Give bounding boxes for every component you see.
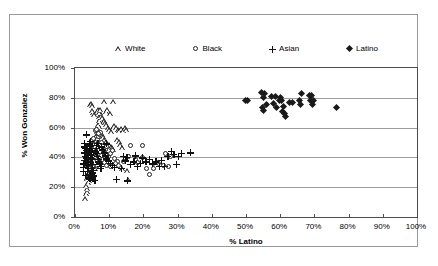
- data-point-white: [100, 134, 106, 139]
- data-point-asian: [93, 145, 100, 152]
- data-point-black: [163, 151, 168, 156]
- triangle-inner: [96, 130, 100, 133]
- data-point-asian: [99, 146, 106, 153]
- data-point-white: [98, 159, 104, 164]
- triangle-inner: [154, 163, 158, 166]
- data-point-white: [82, 196, 88, 201]
- data-point-white: [91, 112, 97, 117]
- data-point-asian: [87, 142, 94, 149]
- data-point-asian: [101, 149, 108, 156]
- data-point-asian: [86, 175, 93, 182]
- data-point-latino: [280, 103, 287, 110]
- data-point-asian: [187, 149, 194, 156]
- data-point-latino: [281, 110, 288, 117]
- y-axis-tick: [71, 68, 75, 69]
- y-axis-tick: [71, 217, 75, 218]
- triangle-inner: [91, 148, 95, 151]
- data-point-black: [93, 141, 98, 146]
- data-point-white: [93, 133, 99, 138]
- triangle-inner: [116, 129, 120, 132]
- data-point-asian: [97, 165, 104, 172]
- y-axis-tick: [71, 157, 75, 158]
- legend-item-asian[interactable]: Asian: [268, 44, 299, 53]
- data-point-white: [110, 99, 116, 104]
- triangle-inner: [85, 177, 89, 180]
- data-point-white: [84, 176, 90, 181]
- triangle-inner: [93, 168, 97, 171]
- circle-icon: [192, 44, 200, 53]
- data-point-white: [96, 110, 102, 115]
- plot-area: [74, 67, 418, 218]
- data-point-asian: [95, 158, 102, 165]
- data-point-asian: [130, 158, 137, 165]
- data-point-white: [97, 107, 103, 112]
- data-point-black: [108, 164, 113, 169]
- triangle-inner: [83, 198, 87, 201]
- y-axis-tick-label: 100%: [45, 63, 65, 72]
- data-point-white: [88, 101, 94, 106]
- legend-label: Asian: [279, 44, 299, 53]
- triangle-inner: [96, 124, 100, 127]
- triangle-inner: [99, 161, 103, 164]
- data-point-latino: [298, 90, 305, 97]
- data-point-white: [108, 144, 114, 149]
- triangle-inner: [90, 105, 94, 108]
- data-point-asian: [90, 167, 97, 174]
- triangle-inner: [102, 139, 106, 142]
- data-point-black: [86, 148, 91, 153]
- data-point-asian: [93, 150, 100, 157]
- triangle-inner: [110, 147, 114, 150]
- data-point-white: [98, 113, 104, 118]
- data-point-white: [94, 129, 100, 134]
- data-point-black: [95, 137, 100, 142]
- data-point-black: [108, 151, 113, 156]
- data-point-black: [85, 163, 90, 168]
- x-axis-tick: [246, 214, 247, 218]
- triangle-inner: [107, 144, 111, 147]
- triangle-inner: [102, 101, 106, 104]
- triangle-inner: [98, 118, 102, 121]
- legend-item-latino[interactable]: Latino: [345, 44, 378, 53]
- triangle-inner: [93, 147, 97, 150]
- data-point-white: [87, 165, 93, 170]
- data-point-asian: [86, 145, 93, 152]
- triangle-inner: [104, 141, 108, 144]
- triangle-inner: [87, 171, 91, 174]
- data-point-white: [95, 122, 101, 127]
- data-point-latino: [333, 104, 340, 111]
- data-point-white: [116, 128, 122, 133]
- data-point-white: [91, 148, 97, 153]
- gridline: [75, 187, 417, 188]
- data-point-white: [89, 150, 95, 155]
- triangle-inner: [98, 109, 102, 112]
- triangle-inner: [97, 116, 101, 119]
- data-point-white: [119, 166, 125, 171]
- triangle-inner: [115, 139, 119, 142]
- data-point-latino: [259, 104, 266, 111]
- legend-item-black[interactable]: Black: [192, 44, 223, 53]
- data-point-white: [95, 107, 101, 112]
- diamond-icon: [345, 44, 353, 53]
- data-point-black: [128, 143, 133, 148]
- data-point-white: [101, 99, 107, 104]
- data-point-white: [108, 129, 114, 134]
- data-point-asian: [107, 160, 114, 167]
- x-axis-tick: [383, 214, 384, 218]
- data-point-asian: [80, 164, 87, 171]
- triangle-inner: [109, 146, 113, 149]
- data-point-black: [116, 163, 121, 168]
- data-point-black: [95, 163, 100, 168]
- data-point-asian: [98, 143, 105, 150]
- data-point-black: [110, 148, 115, 153]
- y-axis-tick: [71, 128, 75, 129]
- legend-item-white[interactable]: White: [114, 44, 145, 53]
- triangle-inner: [90, 162, 94, 165]
- triangle-inner: [86, 182, 90, 185]
- data-point-black: [96, 131, 101, 136]
- data-point-white: [99, 115, 105, 120]
- data-point-asian: [134, 163, 141, 170]
- data-point-black: [99, 140, 104, 145]
- data-point-white: [125, 177, 131, 182]
- triangle-inner: [94, 140, 98, 143]
- data-point-asian: [161, 163, 168, 170]
